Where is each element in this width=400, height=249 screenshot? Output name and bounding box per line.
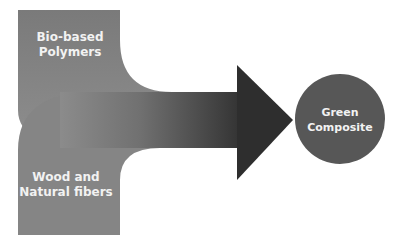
- label-wood-line2: Natural fibers: [16, 185, 116, 200]
- label-output-line2: Composite: [295, 120, 385, 135]
- label-green-composite: Green Composite: [295, 105, 385, 135]
- label-bio-line1: Bio-based: [20, 30, 120, 45]
- arrow-head: [237, 65, 293, 180]
- label-wood-line1: Wood and: [16, 170, 116, 185]
- label-bio-line2: Polymers: [20, 45, 120, 60]
- label-output-line1: Green: [295, 105, 385, 120]
- label-bio-polymers: Bio-based Polymers: [20, 30, 120, 60]
- arrow-shaft: [60, 92, 238, 148]
- label-wood-fibers: Wood and Natural fibers: [16, 170, 116, 200]
